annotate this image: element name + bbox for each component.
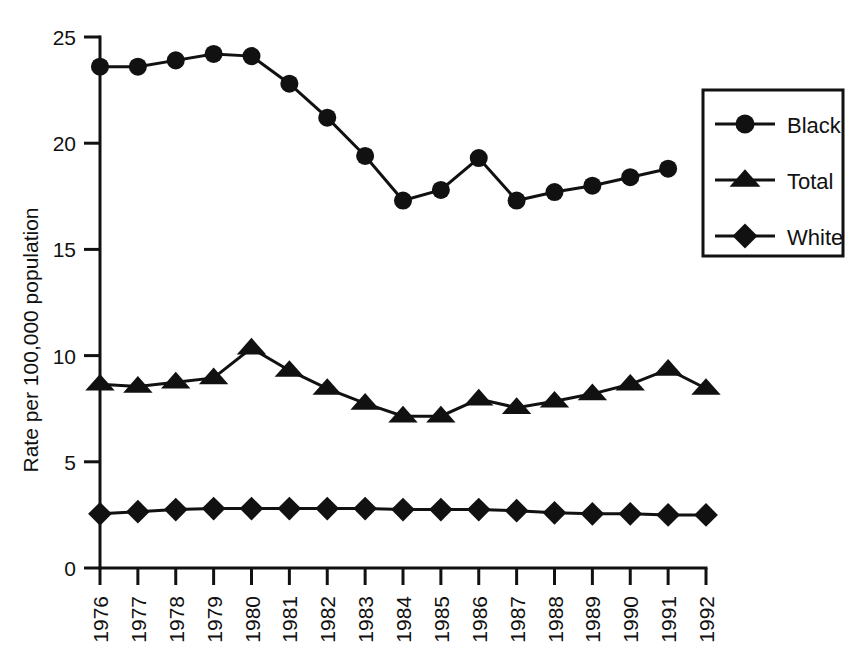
data-point-white-1985 bbox=[429, 498, 453, 522]
x-tick-label: 1981 bbox=[278, 596, 301, 643]
x-tick-label: 1982 bbox=[316, 596, 339, 643]
data-point-white-1982 bbox=[315, 497, 339, 521]
x-tick-label: 1983 bbox=[354, 596, 377, 643]
data-point-total-1983 bbox=[350, 393, 379, 410]
axes bbox=[100, 37, 706, 568]
x-tick-label: 1985 bbox=[430, 596, 453, 643]
data-point-white-1976 bbox=[88, 502, 112, 526]
data-point-white-1992 bbox=[694, 503, 718, 527]
data-point-black-1979 bbox=[205, 45, 223, 63]
data-point-black-1983 bbox=[356, 147, 374, 165]
y-tick-label: 15 bbox=[53, 238, 76, 261]
data-point-black-1977 bbox=[129, 58, 147, 76]
legend-marker-circle bbox=[736, 115, 755, 134]
x-tick-label: 1986 bbox=[468, 596, 491, 643]
data-point-black-1978 bbox=[167, 51, 185, 69]
data-point-total-1986 bbox=[464, 389, 493, 406]
series-line-black bbox=[100, 54, 668, 201]
data-point-white-1987 bbox=[505, 499, 529, 523]
y-tick-label: 0 bbox=[64, 557, 76, 580]
series-group bbox=[85, 45, 720, 527]
series-black bbox=[91, 45, 677, 210]
data-point-total-1991 bbox=[653, 359, 682, 376]
data-point-black-1976 bbox=[91, 58, 109, 76]
data-point-total-1976 bbox=[85, 374, 114, 391]
y-axis-title: Rate per 100,000 population bbox=[19, 207, 42, 472]
x-tick-group: 1976197719781979198019811982198319841985… bbox=[89, 568, 718, 643]
data-point-white-1990 bbox=[618, 502, 642, 526]
x-tick-label: 1988 bbox=[544, 596, 567, 643]
data-point-black-1988 bbox=[545, 183, 563, 201]
data-point-white-1984 bbox=[391, 498, 415, 522]
y-tick-label: 10 bbox=[53, 345, 76, 368]
legend-label-black: Black bbox=[787, 113, 842, 138]
line-chart: Rate per 100,000 population 0510152025 1… bbox=[0, 0, 868, 664]
data-point-total-1992 bbox=[691, 378, 720, 395]
x-tick-label: 1989 bbox=[581, 596, 604, 643]
data-point-black-1985 bbox=[432, 181, 450, 199]
data-point-white-1983 bbox=[353, 497, 377, 521]
data-point-black-1984 bbox=[394, 192, 412, 210]
data-point-black-1989 bbox=[583, 177, 601, 195]
series-white bbox=[88, 497, 718, 527]
x-tick-label: 1991 bbox=[657, 596, 680, 643]
series-total bbox=[85, 338, 720, 423]
y-tick-group: 0510152025 bbox=[53, 26, 100, 580]
data-point-black-1981 bbox=[280, 75, 298, 93]
y-tick-label: 25 bbox=[53, 26, 76, 49]
data-point-total-1982 bbox=[313, 378, 342, 395]
data-point-white-1980 bbox=[240, 497, 264, 521]
legend-label-white: White bbox=[787, 225, 843, 250]
data-point-white-1978 bbox=[164, 498, 188, 522]
data-point-total-1980 bbox=[237, 338, 266, 355]
y-tick-label: 5 bbox=[64, 451, 76, 474]
data-point-black-1982 bbox=[318, 109, 336, 127]
data-point-white-1991 bbox=[656, 503, 680, 527]
data-point-black-1986 bbox=[470, 149, 488, 167]
data-point-black-1987 bbox=[508, 192, 526, 210]
data-point-total-1990 bbox=[616, 374, 645, 391]
data-point-white-1989 bbox=[581, 502, 605, 526]
x-tick-label: 1980 bbox=[241, 596, 264, 643]
data-point-white-1977 bbox=[126, 500, 150, 524]
x-tick-label: 1992 bbox=[695, 596, 718, 643]
x-tick-label: 1978 bbox=[165, 596, 188, 643]
x-tick-label: 1990 bbox=[619, 596, 642, 643]
chart-figure: Rate per 100,000 population 0510152025 1… bbox=[0, 0, 868, 664]
data-point-black-1980 bbox=[242, 47, 260, 65]
x-tick-label: 1976 bbox=[89, 596, 112, 643]
y-tick-label: 20 bbox=[53, 132, 76, 155]
data-point-white-1979 bbox=[202, 497, 226, 521]
data-point-white-1986 bbox=[467, 498, 491, 522]
data-point-total-1981 bbox=[275, 360, 304, 377]
x-tick-label: 1977 bbox=[127, 596, 150, 643]
data-point-white-1988 bbox=[543, 501, 567, 525]
legend-label-total: Total bbox=[787, 169, 833, 194]
x-tick-label: 1979 bbox=[203, 596, 226, 643]
data-point-black-1991 bbox=[659, 160, 677, 178]
data-point-white-1981 bbox=[278, 497, 302, 521]
x-tick-label: 1984 bbox=[392, 596, 415, 643]
x-tick-label: 1987 bbox=[506, 596, 529, 643]
data-point-total-1985 bbox=[426, 406, 455, 423]
legend: BlackTotalWhite bbox=[703, 90, 843, 256]
data-point-black-1990 bbox=[621, 168, 639, 186]
